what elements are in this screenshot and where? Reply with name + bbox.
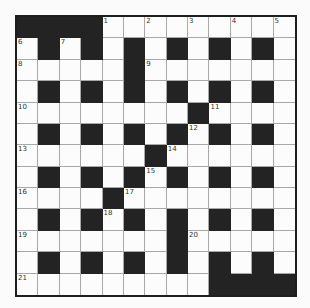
crossword-cell[interactable] (188, 167, 209, 188)
crossword-cell[interactable] (188, 252, 209, 273)
crossword-cell[interactable] (209, 231, 230, 252)
crossword-cell[interactable] (60, 188, 81, 209)
crossword-cell[interactable] (231, 124, 252, 145)
crossword-cell[interactable]: 13 (17, 145, 38, 166)
crossword-cell[interactable] (188, 81, 209, 102)
crossword-cell[interactable] (167, 17, 188, 38)
crossword-cell[interactable] (188, 60, 209, 81)
crossword-cell[interactable] (231, 252, 252, 273)
crossword-cell[interactable] (60, 274, 81, 295)
crossword-cell[interactable]: 12 (188, 124, 209, 145)
crossword-cell[interactable]: 19 (17, 231, 38, 252)
crossword-cell[interactable] (188, 274, 209, 295)
crossword-cell[interactable] (274, 60, 295, 81)
crossword-cell[interactable] (188, 209, 209, 230)
crossword-cell[interactable] (145, 124, 166, 145)
crossword-cell[interactable] (252, 17, 273, 38)
crossword-cell[interactable] (38, 274, 59, 295)
crossword-cell[interactable] (274, 209, 295, 230)
crossword-cell[interactable] (81, 231, 102, 252)
crossword-cell[interactable] (145, 231, 166, 252)
crossword-cell[interactable] (252, 231, 273, 252)
crossword-cell[interactable] (231, 145, 252, 166)
crossword-cell[interactable] (252, 145, 273, 166)
crossword-cell[interactable]: 20 (188, 231, 209, 252)
crossword-cell[interactable]: 1 (103, 17, 124, 38)
crossword-cell[interactable] (103, 145, 124, 166)
crossword-cell[interactable] (103, 167, 124, 188)
crossword-cell[interactable] (209, 17, 230, 38)
crossword-cell[interactable] (188, 145, 209, 166)
crossword-cell[interactable]: 4 (231, 17, 252, 38)
crossword-cell[interactable] (124, 274, 145, 295)
crossword-cell[interactable]: 9 (145, 60, 166, 81)
crossword-cell[interactable]: 16 (17, 188, 38, 209)
crossword-cell[interactable] (60, 124, 81, 145)
crossword-cell[interactable] (167, 103, 188, 124)
crossword-cell[interactable] (60, 81, 81, 102)
crossword-cell[interactable] (274, 252, 295, 273)
crossword-cell[interactable] (231, 188, 252, 209)
crossword-cell[interactable] (81, 60, 102, 81)
crossword-cell[interactable] (231, 209, 252, 230)
crossword-cell[interactable] (274, 81, 295, 102)
crossword-cell[interactable] (167, 188, 188, 209)
crossword-cell[interactable] (103, 124, 124, 145)
crossword-cell[interactable] (103, 38, 124, 59)
crossword-cell[interactable] (103, 274, 124, 295)
crossword-cell[interactable] (81, 188, 102, 209)
crossword-cell[interactable] (60, 209, 81, 230)
crossword-cell[interactable]: 11 (209, 103, 230, 124)
crossword-cell[interactable] (103, 81, 124, 102)
crossword-cell[interactable] (38, 103, 59, 124)
crossword-cell[interactable]: 21 (17, 274, 38, 295)
crossword-cell[interactable]: 17 (124, 188, 145, 209)
crossword-cell[interactable] (209, 145, 230, 166)
crossword-cell[interactable]: 2 (145, 17, 166, 38)
crossword-cell[interactable] (231, 103, 252, 124)
crossword-cell[interactable]: 15 (145, 167, 166, 188)
crossword-cell[interactable] (274, 167, 295, 188)
crossword-cell[interactable] (81, 145, 102, 166)
crossword-cell[interactable] (274, 188, 295, 209)
crossword-cell[interactable] (17, 81, 38, 102)
crossword-cell[interactable] (81, 103, 102, 124)
crossword-cell[interactable] (274, 124, 295, 145)
crossword-cell[interactable] (17, 209, 38, 230)
crossword-cell[interactable] (124, 17, 145, 38)
crossword-cell[interactable] (124, 103, 145, 124)
crossword-cell[interactable] (231, 60, 252, 81)
crossword-cell[interactable] (274, 38, 295, 59)
crossword-cell[interactable] (188, 188, 209, 209)
crossword-cell[interactable] (60, 145, 81, 166)
crossword-cell[interactable] (38, 231, 59, 252)
crossword-cell[interactable] (252, 60, 273, 81)
crossword-cell[interactable] (167, 60, 188, 81)
crossword-cell[interactable] (274, 145, 295, 166)
crossword-cell[interactable] (209, 60, 230, 81)
crossword-cell[interactable] (231, 81, 252, 102)
crossword-cell[interactable] (81, 274, 102, 295)
crossword-cell[interactable] (38, 188, 59, 209)
crossword-cell[interactable] (145, 38, 166, 59)
crossword-cell[interactable] (167, 274, 188, 295)
crossword-cell[interactable] (124, 231, 145, 252)
crossword-cell[interactable] (188, 38, 209, 59)
crossword-cell[interactable]: 10 (17, 103, 38, 124)
crossword-cell[interactable] (145, 252, 166, 273)
crossword-cell[interactable] (209, 188, 230, 209)
crossword-cell[interactable] (60, 103, 81, 124)
crossword-cell[interactable] (274, 231, 295, 252)
crossword-cell[interactable]: 6 (17, 38, 38, 59)
crossword-cell[interactable]: 7 (60, 38, 81, 59)
crossword-cell[interactable] (145, 188, 166, 209)
crossword-cell[interactable] (103, 103, 124, 124)
crossword-cell[interactable] (38, 60, 59, 81)
crossword-cell[interactable] (60, 231, 81, 252)
crossword-cell[interactable] (274, 103, 295, 124)
crossword-cell[interactable] (145, 274, 166, 295)
crossword-cell[interactable]: 3 (188, 17, 209, 38)
crossword-cell[interactable] (252, 103, 273, 124)
crossword-cell[interactable] (231, 38, 252, 59)
crossword-cell[interactable] (231, 167, 252, 188)
